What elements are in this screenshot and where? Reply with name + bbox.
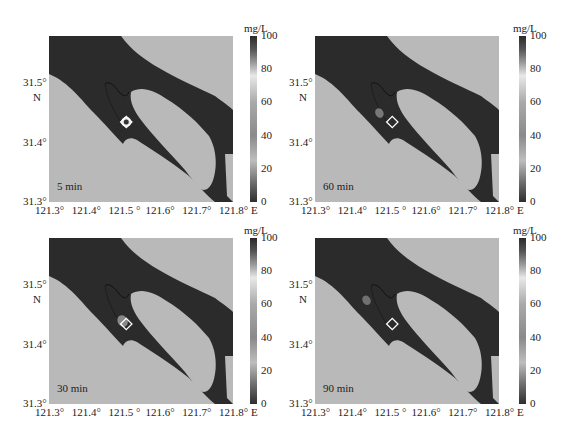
- x-tick-label: 121.5 °: [375, 407, 407, 418]
- colorbar-tick-label: 60: [261, 298, 272, 309]
- colorbar-tick-label: 0: [261, 196, 267, 207]
- x-tick-label: 121.5 °: [375, 205, 407, 216]
- colorbar-unit-label: mg/L: [513, 225, 537, 236]
- colorbar-unit-label: mg/L: [244, 225, 268, 236]
- time-label: 5 min: [57, 181, 82, 192]
- x-tick-label: 121.4°: [72, 205, 101, 216]
- estuary-map: [49, 238, 233, 404]
- colorbar-tick-label: 60: [530, 298, 541, 309]
- y-tick-label: 31.5°: [23, 279, 47, 290]
- x-tick-label: 121.4°: [72, 407, 101, 418]
- colorbar-tick-label: 20: [530, 365, 541, 376]
- colorbar: [250, 238, 257, 404]
- north-label: N: [299, 92, 307, 103]
- y-tick-label: 31.4°: [23, 137, 47, 148]
- x-tick-label: 121.7°: [448, 205, 477, 216]
- colorbar-tick-label: 80: [261, 265, 272, 276]
- x-tick-label: 121.6°: [145, 205, 174, 216]
- map-plot-area: 5 min: [49, 36, 233, 202]
- x-tick-label: 121.4°: [338, 407, 367, 418]
- colorbar-tick-label: 0: [261, 398, 267, 409]
- x-tick-label: 121.8° E: [219, 407, 258, 418]
- colorbar-tick-label: 40: [530, 130, 541, 141]
- time-label: 30 min: [57, 383, 88, 394]
- time-label: 90 min: [323, 383, 354, 394]
- north-label: N: [33, 92, 41, 103]
- y-tick-label: 31.3°: [289, 196, 313, 207]
- x-tick-label: 121.6°: [145, 407, 174, 418]
- plume-layer: [121, 117, 131, 127]
- colorbar-tick-label: 40: [261, 130, 272, 141]
- x-tick-label: 121.5 °: [109, 205, 141, 216]
- estuary-map: [315, 238, 499, 404]
- colorbar-tick-label: 20: [261, 163, 272, 174]
- y-tick-label: 31.5°: [23, 77, 47, 88]
- colorbar-tick-label: 80: [530, 265, 541, 276]
- x-tick-label: 121.8° E: [219, 205, 258, 216]
- map-plot-area: 60 min: [315, 36, 499, 202]
- colorbar-tick-label: 60: [530, 96, 541, 107]
- colorbar-tick-label: 40: [530, 332, 541, 343]
- colorbar: [519, 238, 526, 404]
- y-tick-label: 31.4°: [289, 339, 313, 350]
- colorbar-unit-label: mg/L: [244, 23, 268, 34]
- y-tick-label: 31.4°: [289, 137, 313, 148]
- x-tick-label: 121.5 °: [109, 407, 141, 418]
- map-plot-area: 30 min: [49, 238, 233, 404]
- time-label: 60 min: [323, 181, 354, 192]
- colorbar-tick-label: 40: [261, 332, 272, 343]
- colorbar-tick-label: 60: [261, 96, 272, 107]
- y-tick-label: 31.4°: [23, 339, 47, 350]
- plume-core: [124, 119, 129, 124]
- estuary-map: [315, 36, 499, 202]
- y-tick-label: 31.3°: [23, 196, 47, 207]
- north-label: N: [33, 294, 41, 305]
- colorbar-tick-label: 20: [530, 163, 541, 174]
- x-tick-label: 121.7°: [448, 407, 477, 418]
- x-tick-label: 121.6°: [411, 407, 440, 418]
- x-tick-label: 121.6°: [411, 205, 440, 216]
- colorbar: [250, 36, 257, 202]
- map-plot-area: 90 min: [315, 238, 499, 404]
- x-tick-label: 121.7°: [182, 205, 211, 216]
- x-tick-label: 121.8° E: [485, 407, 524, 418]
- colorbar-tick-label: 80: [530, 63, 541, 74]
- colorbar-unit-label: mg/L: [513, 23, 537, 34]
- x-tick-label: 121.4°: [338, 205, 367, 216]
- y-tick-label: 31.3°: [23, 398, 47, 409]
- x-tick-label: 121.8° E: [485, 205, 524, 216]
- colorbar-tick-label: 0: [530, 398, 536, 409]
- colorbar-tick-label: 0: [530, 196, 536, 207]
- colorbar: [519, 36, 526, 202]
- estuary-map: [49, 36, 233, 202]
- x-tick-label: 121.7°: [182, 407, 211, 418]
- y-tick-label: 31.3°: [289, 398, 313, 409]
- y-tick-label: 31.5°: [289, 279, 313, 290]
- north-label: N: [299, 294, 307, 305]
- colorbar-tick-label: 80: [261, 63, 272, 74]
- y-tick-label: 31.5°: [289, 77, 313, 88]
- colorbar-tick-label: 20: [261, 365, 272, 376]
